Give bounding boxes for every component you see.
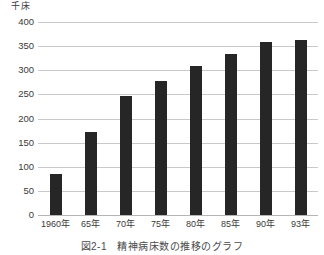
bar[interactable] bbox=[50, 174, 62, 215]
bar[interactable] bbox=[295, 40, 307, 215]
bar-series bbox=[38, 22, 318, 215]
bar-slot bbox=[283, 22, 318, 215]
bar[interactable] bbox=[155, 81, 167, 215]
figure-caption: 図2-1 精神病床数の推移のグラフ bbox=[0, 240, 324, 253]
y-axis-tick-label: 350 bbox=[0, 41, 34, 51]
bar[interactable] bbox=[225, 54, 237, 215]
y-axis-tick-labels: 050100150200250300350400 bbox=[0, 22, 34, 215]
bar-slot bbox=[38, 22, 73, 215]
x-axis-baseline bbox=[38, 215, 318, 216]
bar[interactable] bbox=[190, 66, 202, 215]
x-axis-tick-label: 93年 bbox=[291, 218, 310, 230]
x-axis-tick-label: 65年 bbox=[81, 218, 100, 230]
bar-slot bbox=[143, 22, 178, 215]
y-axis-tick-label: 100 bbox=[0, 162, 34, 172]
bar-slot bbox=[213, 22, 248, 215]
y-axis-tick-label: 150 bbox=[0, 138, 34, 148]
y-axis-tick-label: 50 bbox=[0, 186, 34, 196]
x-axis-tick-label: 75年 bbox=[151, 218, 170, 230]
x-axis-tick-label: 1960年 bbox=[41, 218, 70, 230]
bar-slot bbox=[73, 22, 108, 215]
x-axis-tick-labels: 1960年65年70年75年80年85年90年93年 bbox=[38, 218, 318, 234]
chart-figure: 千床 050100150200250300350400 1960年65年70年7… bbox=[0, 0, 324, 255]
bar-slot bbox=[108, 22, 143, 215]
y-axis-tick-label: 400 bbox=[0, 17, 34, 27]
y-axis-unit-label: 千床 bbox=[11, 0, 31, 13]
bar[interactable] bbox=[260, 42, 272, 215]
bar-slot bbox=[248, 22, 283, 215]
x-axis-tick-label: 85年 bbox=[221, 218, 240, 230]
x-axis-tick-label: 80年 bbox=[186, 218, 205, 230]
y-axis-tick-label: 300 bbox=[0, 65, 34, 75]
y-axis-tick-label: 200 bbox=[0, 114, 34, 124]
y-axis-tick-label: 0 bbox=[0, 210, 34, 220]
bar[interactable] bbox=[85, 132, 97, 215]
x-axis-tick-label: 70年 bbox=[116, 218, 135, 230]
bar-slot bbox=[178, 22, 213, 215]
y-axis-tick-label: 250 bbox=[0, 89, 34, 99]
x-axis-tick-label: 90年 bbox=[256, 218, 275, 230]
bar[interactable] bbox=[120, 96, 132, 215]
